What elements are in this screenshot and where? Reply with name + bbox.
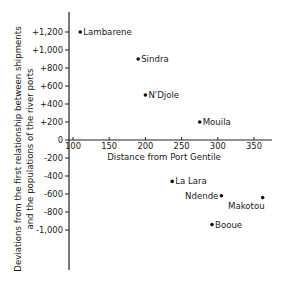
data-point: Makotou bbox=[228, 196, 265, 211]
point-marker-icon bbox=[144, 93, 148, 97]
y-axis-label-line1: Deviations from the first relationship b… bbox=[13, 26, 23, 272]
point-label: N'Djole bbox=[148, 90, 179, 100]
y-tick-label: -600 bbox=[44, 189, 63, 199]
y-tick-label: -200 bbox=[44, 153, 63, 163]
chart-canvas: +1,200+1,000+800+600+400+2000-200-400-60… bbox=[0, 0, 287, 282]
point-marker-icon bbox=[170, 180, 174, 184]
point-label: Mouila bbox=[203, 117, 231, 127]
y-axis-label-line2: and the populations of the river ports bbox=[25, 68, 35, 230]
y-tick-label: +1,000 bbox=[32, 45, 63, 55]
x-tick-label: 200 bbox=[137, 141, 153, 151]
data-point: N'Djole bbox=[144, 90, 180, 100]
x-tick-label: 300 bbox=[210, 141, 226, 151]
point-label: Makotou bbox=[228, 201, 265, 211]
point-marker-icon bbox=[198, 120, 202, 124]
data-point: Sindra bbox=[136, 54, 168, 64]
data-point: La Lara bbox=[170, 176, 206, 186]
data-point: Ndende bbox=[185, 191, 223, 201]
x-tick-label: 250 bbox=[174, 141, 190, 151]
point-marker-icon bbox=[210, 223, 214, 227]
x-tick-label: 350 bbox=[246, 141, 262, 151]
x-tick-label: 150 bbox=[101, 141, 117, 151]
x-axis-label: Distance from Port Gentile bbox=[107, 152, 221, 162]
y-tick-label: -400 bbox=[44, 171, 63, 181]
y-tick-label: +200 bbox=[40, 117, 63, 127]
data-point: Booue bbox=[210, 220, 242, 230]
y-tick-label: +400 bbox=[40, 99, 63, 109]
scatter-chart: +1,200+1,000+800+600+400+2000-200-400-60… bbox=[0, 0, 287, 282]
axes: +1,200+1,000+800+600+400+2000-200-400-60… bbox=[32, 12, 272, 270]
data-points: LambareneSindraN'DjoleMouilaLa LaraNdend… bbox=[78, 27, 264, 230]
y-tick-label: +800 bbox=[40, 63, 63, 73]
point-marker-icon bbox=[136, 57, 140, 61]
y-tick-label: 0 bbox=[58, 135, 63, 145]
point-label: Booue bbox=[215, 220, 242, 230]
y-tick-label: +1,200 bbox=[32, 27, 63, 37]
y-tick-label: -1,000 bbox=[36, 225, 63, 235]
point-label: La Lara bbox=[175, 176, 207, 186]
point-label: Lambarene bbox=[83, 27, 132, 37]
point-marker-icon bbox=[78, 30, 82, 34]
data-point: Lambarene bbox=[78, 27, 131, 37]
point-label: Ndende bbox=[185, 191, 218, 201]
point-label: Sindra bbox=[141, 54, 169, 64]
point-marker-icon bbox=[261, 196, 265, 200]
point-marker-icon bbox=[220, 194, 224, 198]
y-tick-label: +600 bbox=[40, 81, 63, 91]
data-point: Mouila bbox=[198, 117, 231, 127]
y-tick-label: -800 bbox=[44, 207, 63, 217]
x-tick-label: 100 bbox=[65, 141, 81, 151]
